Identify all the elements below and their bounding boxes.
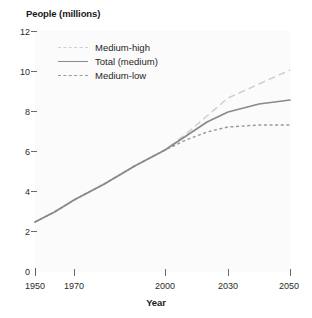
legend-item-total-medium[interactable]: Total (medium) bbox=[58, 54, 208, 68]
legend-label-medium-low: Medium-low bbox=[95, 70, 146, 81]
legend-label-medium-high: Medium-high bbox=[95, 42, 150, 53]
chart-legend: Medium-high Total (medium) Medium-low bbox=[58, 40, 208, 82]
legend-line-total-medium-icon bbox=[58, 56, 88, 66]
legend-label-total-medium: Total (medium) bbox=[95, 56, 158, 67]
legend-item-medium-low[interactable]: Medium-low bbox=[58, 68, 208, 82]
legend-item-medium-high[interactable]: Medium-high bbox=[58, 40, 208, 54]
legend-line-medium-low-icon bbox=[58, 70, 88, 80]
population-projection-chart: People (millions) 12 10 8 6 4 2 0 1950 1… bbox=[0, 0, 312, 318]
legend-line-medium-high-icon bbox=[58, 42, 88, 52]
